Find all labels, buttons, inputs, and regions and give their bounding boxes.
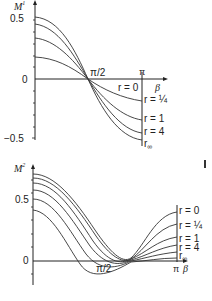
bottom-xtick-pi: π [173, 264, 179, 274]
bottom-legend: r = 0 r = ¼ r = 1 r = 4 r∞ [179, 205, 203, 262]
figure: M1 0.5 0 −0.5 π/2 π β r = 0 r = ¼ r = 1 … [0, 0, 212, 301]
bottom-y-axis-arrow-icon [31, 164, 35, 169]
top-legend-r4: r = 4 [144, 126, 165, 137]
bottom-legend-r-quarter: r = ¼ [179, 220, 203, 231]
bottom-curves [33, 174, 177, 274]
bottom-curve-r0 [33, 174, 177, 260]
top-x-axis-arrow-icon [163, 77, 168, 81]
top-ylabel: M1 [13, 0, 25, 12]
top-y-axis-arrow-icon [33, 0, 37, 5]
top-ytick-neg05: −0.5 [4, 133, 24, 144]
top-xtick-pi: π [139, 67, 145, 77]
bottom-curve-r4 [33, 190, 177, 263]
top-legend-r-quarter: r = ¼ [144, 94, 168, 105]
bottom-legend-r0: r = 0 [179, 205, 200, 216]
bottom-ytick-0: 0 [23, 255, 29, 266]
top-plot: M1 0.5 0 −0.5 π/2 π β r = 0 r = ¼ r = 1 … [4, 0, 168, 150]
top-legend-r1: r = 1 [144, 113, 165, 124]
top-legend: r = 0 r = ¼ r = 1 r = 4 r∞ [118, 82, 168, 150]
top-legend-rinf: r∞ [144, 138, 152, 150]
top-xtick-pi-half: π/2 [90, 67, 106, 78]
bottom-ylabel: M2 [13, 162, 25, 174]
bottom-curve-r-quarter [33, 178, 177, 260]
bottom-plot: M2 0.5 0 π/2 π β r = 0 r = ¼ r = 1 r = 4… [13, 162, 203, 285]
top-legend-r0: r = 0 [118, 82, 139, 93]
page-edge-mark [204, 160, 206, 168]
bottom-curve-r1 [33, 183, 177, 262]
bottom-ytick-05: 0.5 [15, 194, 29, 205]
top-ytick-0: 0 [22, 74, 28, 85]
top-xlabel: β [154, 82, 160, 93]
bottom-xtick-pi-half: π/2 [96, 263, 112, 274]
bottom-curve-rinf [33, 199, 177, 267]
top-ytick-05: 0.5 [10, 13, 24, 24]
bottom-xlabel: β [182, 263, 188, 274]
